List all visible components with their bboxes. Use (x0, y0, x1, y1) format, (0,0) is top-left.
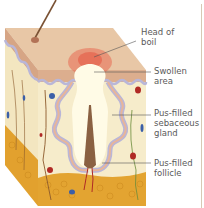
label-head-of-boil: Head of boil (141, 27, 174, 47)
blood-cell (130, 153, 136, 160)
hair-follicle-opening (31, 37, 39, 43)
blue-cell (69, 190, 75, 195)
blood-cell (135, 87, 141, 94)
label-swollen-area: Swollen area (154, 66, 187, 86)
blue-cell (49, 93, 55, 99)
blue-cell (7, 112, 10, 119)
blue-cell (23, 95, 26, 101)
blood-cell (47, 167, 53, 173)
page-edge-line (201, 4, 202, 208)
label-follicle: Pus-filled follicle (154, 158, 193, 178)
blue-cell (141, 124, 144, 132)
blood-cell (40, 133, 43, 137)
label-sebaceous-gland: Pus-filled sebaceous gland (154, 108, 199, 138)
